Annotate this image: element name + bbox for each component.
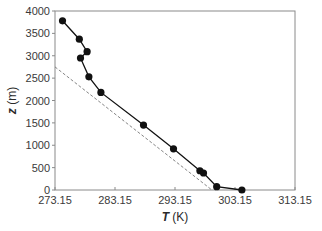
data-point-marker xyxy=(140,122,147,129)
data-point-marker xyxy=(200,169,207,176)
y-tick-label: 3500 xyxy=(26,27,50,39)
data-point-marker xyxy=(59,17,66,24)
x-tick-label: 293.15 xyxy=(158,194,192,206)
x-tick-label: 313.15 xyxy=(278,194,312,206)
plot-frame xyxy=(55,11,295,190)
y-tick-label: 500 xyxy=(32,162,50,174)
plot-border xyxy=(55,11,295,190)
data-point-marker xyxy=(84,48,91,55)
y-tick-label: 4000 xyxy=(26,5,50,17)
data-point-marker xyxy=(170,145,177,152)
data-point-marker xyxy=(213,183,220,190)
data-series xyxy=(55,17,246,193)
data-point-marker xyxy=(97,89,104,96)
y-axis-label: z (m) xyxy=(5,87,19,115)
x-tick-label: 283.15 xyxy=(98,194,132,206)
x-axis-label: T (K) xyxy=(162,210,189,224)
y-tick-label: 1000 xyxy=(26,139,50,151)
y-axis-ticks: 05001000150020002500300035004000 xyxy=(26,5,55,196)
data-point-marker xyxy=(76,36,83,43)
y-tick-label: 2500 xyxy=(26,72,50,84)
reference-dashed-line xyxy=(55,67,212,190)
data-point-marker xyxy=(85,73,92,80)
y-tick-label: 3000 xyxy=(26,50,50,62)
data-point-marker xyxy=(238,186,245,193)
y-tick-label: 2000 xyxy=(26,95,50,107)
x-tick-label: 273.15 xyxy=(38,194,72,206)
temperature-height-chart: 05001000150020002500300035004000 273.152… xyxy=(0,0,322,231)
data-point-marker xyxy=(77,54,84,61)
x-tick-label: 303.15 xyxy=(218,194,252,206)
y-tick-label: 1500 xyxy=(26,117,50,129)
profile-line xyxy=(63,21,242,190)
